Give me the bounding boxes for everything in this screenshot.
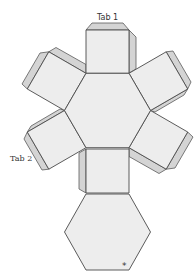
tab-2-label: Tab 2 — [10, 154, 32, 163]
top-square-side-tab — [129, 30, 136, 73]
bottom-square — [86, 149, 129, 193]
bottom-square-side-tab — [79, 149, 86, 193]
prism-net-diagram: Tab 1 Tab 2 * — [0, 0, 194, 275]
tab-1-flap — [86, 23, 129, 30]
bottom-hexagon — [65, 194, 151, 270]
asterisk-marker: * — [122, 261, 127, 271]
tab-1-label: Tab 1 — [96, 13, 118, 22]
top-square — [86, 30, 129, 73]
